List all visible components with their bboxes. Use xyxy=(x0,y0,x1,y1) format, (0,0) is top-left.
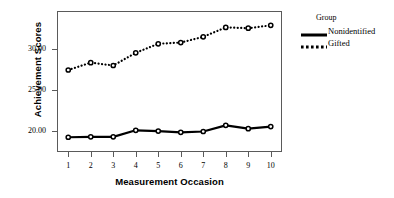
y-tick-mark xyxy=(52,49,57,50)
x-tick-label: 7 xyxy=(194,161,212,170)
x-tick-mark xyxy=(248,152,249,157)
x-tick-mark xyxy=(226,152,227,157)
data-point-marker xyxy=(66,68,70,72)
data-point-marker xyxy=(246,26,250,30)
x-tick-label: 2 xyxy=(82,161,100,170)
x-tick-mark xyxy=(158,152,159,157)
data-point-marker xyxy=(156,129,160,133)
y-tick-label: 20.00 xyxy=(12,126,46,135)
y-tick-label: 25.00 xyxy=(12,85,46,94)
legend-label: Nonidentified xyxy=(328,26,375,36)
legend-label: Gifted xyxy=(328,38,350,48)
x-tick-label: 6 xyxy=(172,161,190,170)
x-tick-label: 3 xyxy=(104,161,122,170)
x-tick-label: 8 xyxy=(217,161,235,170)
data-point-marker xyxy=(201,35,205,39)
x-tick-label: 9 xyxy=(239,161,257,170)
legend-swatch-dotted-line xyxy=(300,38,328,48)
data-point-marker xyxy=(66,135,70,139)
data-point-marker xyxy=(179,40,183,44)
data-point-marker xyxy=(269,124,273,128)
x-tick-label: 4 xyxy=(127,161,145,170)
x-tick-mark xyxy=(113,152,114,157)
plot-area xyxy=(57,11,282,152)
data-point-marker xyxy=(224,25,228,29)
legend: Group NonidentifiedGifted xyxy=(300,13,394,49)
series-nonidentified xyxy=(66,123,273,139)
x-tick-mark xyxy=(181,152,182,157)
x-tick-label: 5 xyxy=(149,161,167,170)
x-tick-mark xyxy=(271,152,272,157)
x-tick-label: 1 xyxy=(59,161,77,170)
legend-entry-nonidentified: Nonidentified xyxy=(300,25,394,37)
y-tick-mark xyxy=(52,90,57,91)
legend-title: Group xyxy=(316,13,394,22)
data-point-marker xyxy=(224,123,228,127)
y-tick-label: 30.00 xyxy=(12,44,46,53)
data-point-marker xyxy=(89,61,93,65)
series-gifted xyxy=(66,23,273,72)
data-point-marker xyxy=(156,42,160,46)
series-line xyxy=(68,125,271,137)
x-tick-mark xyxy=(91,152,92,157)
x-tick-label: 10 xyxy=(262,161,280,170)
x-tick-mark xyxy=(203,152,204,157)
data-point-marker xyxy=(246,127,250,131)
data-point-marker xyxy=(134,51,138,55)
data-point-marker xyxy=(134,128,138,132)
data-point-marker xyxy=(269,23,273,27)
data-point-marker xyxy=(179,130,183,134)
data-point-marker xyxy=(111,135,115,139)
legend-swatch-solid-line xyxy=(300,26,328,36)
x-tick-mark xyxy=(136,152,137,157)
x-tick-mark xyxy=(68,152,69,157)
data-point-marker xyxy=(201,129,205,133)
series-line xyxy=(68,25,271,70)
legend-entry-gifted: Gifted xyxy=(300,37,394,49)
achievement-scores-line-chart: Achievement Scores 20.0025.0030.00 12345… xyxy=(0,0,394,198)
y-axis-title: Achievement Scores xyxy=(32,0,43,140)
data-point-marker xyxy=(111,63,115,67)
y-tick-mark xyxy=(52,131,57,132)
x-axis-title: Measurement Occasion xyxy=(57,176,282,187)
data-point-marker xyxy=(89,135,93,139)
legend-entries: NonidentifiedGifted xyxy=(300,25,394,49)
